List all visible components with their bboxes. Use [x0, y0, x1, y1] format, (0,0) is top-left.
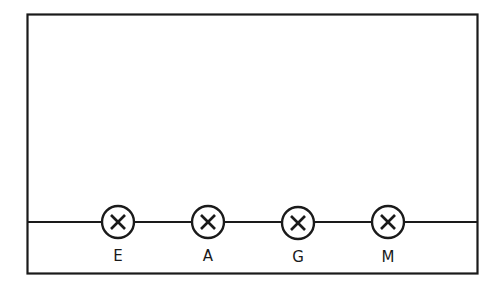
circuit-frame	[28, 15, 478, 274]
lamp-label-e: E	[113, 247, 122, 265]
lamp-a: A	[192, 206, 224, 265]
lamp-label-a: A	[203, 247, 214, 265]
lamp-label-g: G	[292, 248, 304, 266]
circuit-diagram: E A G M	[0, 0, 496, 287]
lamp-m: M	[372, 206, 404, 266]
lamp-g: G	[282, 207, 314, 266]
lamp-e: E	[102, 206, 134, 265]
lamp-label-m: M	[382, 248, 395, 266]
